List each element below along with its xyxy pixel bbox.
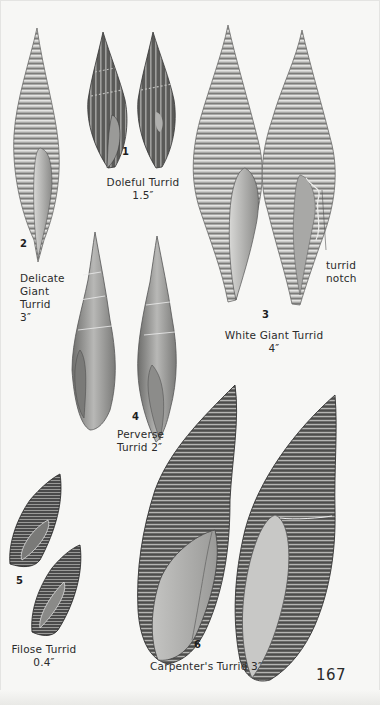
shell-delicate-giant-turrid [14, 28, 60, 262]
plate-number-6: 6 [194, 639, 201, 650]
page-bottom-edge [0, 690, 380, 705]
shell-perverse-turrid-front [72, 232, 115, 430]
annotation-line: turrid [326, 259, 376, 272]
caption-name-line: Turrid [20, 298, 80, 311]
caption-size: 1.5″ [98, 189, 188, 202]
caption-doleful-turrid: Doleful Turrid 1.5″ [98, 176, 188, 202]
caption-delicate-giant-turrid: Delicate Giant Turrid 3″ [20, 272, 80, 324]
shell-white-giant-turrid-back [262, 30, 335, 305]
caption-name-line: Giant [20, 285, 80, 298]
field-guide-page: 1 Doleful Turrid 1.5″ 2 Delicate Giant T… [0, 0, 380, 705]
plate-number-5: 5 [16, 575, 23, 586]
shell-carpenters-turrid-back [235, 395, 336, 681]
plate-number-4: 4 [132, 411, 139, 422]
annotation-turrid-notch: turrid notch [326, 259, 376, 285]
caption-size: 4″ [222, 342, 326, 355]
page-number: 167 [316, 666, 346, 684]
caption-size: 0.4″ [8, 656, 80, 669]
caption-name-line: Turrid 2″ [117, 441, 197, 454]
plate-number-1: 1 [122, 146, 129, 157]
shell-filose-turrid-1 [10, 474, 61, 567]
caption-filose-turrid: Filose Turrid 0.4″ [8, 643, 80, 669]
shell-white-giant-turrid-front [193, 25, 262, 302]
caption-perverse-turrid: Perverse Turrid 2″ [117, 428, 197, 454]
plate-number-3: 3 [262, 309, 269, 320]
caption-name: Carpenter's Turrid 3″ [150, 660, 290, 673]
caption-name-line: Delicate [20, 272, 80, 285]
shell-perverse-turrid-back [138, 236, 177, 442]
plate-number-2: 2 [20, 238, 27, 249]
caption-white-giant-turrid: White Giant Turrid 4″ [222, 329, 326, 355]
caption-name: White Giant Turrid [222, 329, 326, 342]
annotation-line: notch [326, 272, 376, 285]
caption-name: Filose Turrid [8, 643, 80, 656]
caption-size: 3″ [20, 311, 80, 324]
caption-name-line: Perverse [117, 428, 197, 441]
caption-name: Doleful Turrid [98, 176, 188, 189]
caption-carpenters-turrid: Carpenter's Turrid 3″ [150, 660, 290, 673]
shell-doleful-turrid-back [138, 32, 176, 168]
